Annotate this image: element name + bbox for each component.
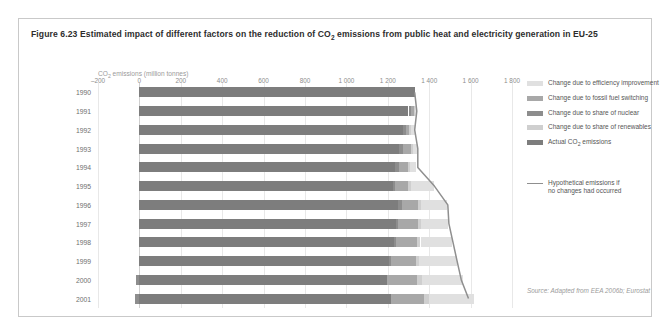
gridline — [512, 83, 513, 308]
legend-item[interactable]: Change due to share of nuclear — [527, 109, 667, 117]
y-axis-label: 2000 — [57, 276, 91, 283]
hypothetical-line-path — [415, 92, 469, 298]
legend-label: Change due to efficiency improvement — [548, 79, 659, 87]
legend-hypothetical-emissions: Hypothetical emissions if no changes had… — [527, 179, 667, 196]
legend-label: Change due to fossil fuel switching — [548, 94, 648, 102]
axis-unit-prefix: CO — [98, 70, 108, 77]
figure-frame: Figure 6.23 Estimated impact of differen… — [18, 18, 652, 317]
y-axis-label: 1993 — [57, 145, 91, 152]
legend-hypothetical-label: Hypothetical emissions if no changes had… — [548, 179, 621, 196]
legend-label-prefix: Actual CO — [548, 138, 578, 145]
legend-swatch — [527, 81, 543, 86]
y-axis-label: 1996 — [57, 201, 91, 208]
y-axis-label: 1999 — [57, 258, 91, 265]
hypothetical-label-line1: Hypothetical emissions if — [548, 179, 620, 186]
hypothetical-line-swatch — [527, 183, 543, 184]
y-axis-label: 1992 — [57, 126, 91, 133]
y-axis-label: 1991 — [57, 108, 91, 115]
y-axis-label: 2001 — [57, 295, 91, 302]
legend-item[interactable]: Change due to share of renewables — [527, 123, 667, 131]
legend-item[interactable]: Change due to fossil fuel switching — [527, 94, 667, 102]
page-title: Figure 6.23 Estimated impact of differen… — [31, 29, 641, 41]
legend-swatch — [527, 111, 543, 116]
y-axis-label: 1994 — [57, 164, 91, 171]
y-axis-label: 1990 — [57, 89, 91, 96]
legend: Change due to efficiency improvementChan… — [527, 79, 667, 155]
y-axis-label: 1997 — [57, 220, 91, 227]
legend-swatch — [527, 140, 543, 145]
legend-item[interactable]: Actual CO2 emissions — [527, 138, 667, 149]
hypothetical-emissions-line — [98, 83, 512, 308]
legend-label: Change due to share of renewables — [548, 123, 651, 131]
y-axis-label: 1995 — [57, 183, 91, 190]
legend-swatch — [527, 96, 543, 101]
hypothetical-label-line2: no changes had occurred — [548, 187, 621, 194]
y-axis-label: 1998 — [57, 239, 91, 246]
source-note: Source: Adapted from EEA 2006b; Eurostat — [527, 287, 663, 296]
figure-title-prefix: Figure 6.23 Estimated impact of differen… — [31, 29, 331, 39]
legend-label-suffix: emissions — [581, 138, 612, 145]
figure-title-suffix: emissions from public heat and electrici… — [335, 29, 598, 39]
axis-unit-suffix: emissions (million tonnes) — [111, 70, 189, 77]
plot-area — [98, 83, 512, 308]
legend-label: Change due to share of nuclear — [548, 109, 639, 117]
legend-label: Actual CO2 emissions — [548, 138, 611, 149]
legend-swatch — [527, 125, 543, 130]
legend-item[interactable]: Change due to efficiency improvement — [527, 79, 667, 87]
